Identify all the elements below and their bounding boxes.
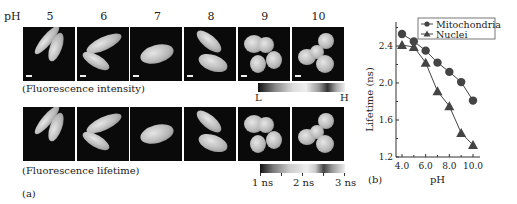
mitochondria-marker (469, 96, 477, 104)
cell-shape (266, 51, 282, 69)
x-tick-label: 6.0 (419, 161, 434, 171)
intensity-caption: (Fluorescence intensity) (22, 83, 145, 94)
panel-a-label: (a) (22, 188, 36, 199)
lifetime-caption: (Fluorescence lifetime) (22, 165, 140, 176)
lifetime-label-1ns: 1 ns (252, 177, 273, 188)
mitochondria-marker (445, 68, 453, 76)
intensity-image-ph-8 (184, 27, 236, 81)
lifetime-colorbar (260, 164, 345, 173)
intensity-image-ph-6 (77, 27, 129, 81)
cell-shape (250, 135, 266, 153)
lifetime-image-ph-9 (238, 107, 290, 161)
ph-column-label: 8 (184, 10, 238, 23)
lifetime-vs-ph-chart: 1.21.62.02.44.06.08.010.0pHLifetime (ns)… (360, 0, 517, 204)
mitochondria-marker (398, 30, 406, 38)
mitochondria-marker (421, 46, 429, 54)
panel-b-label: (b) (368, 174, 382, 185)
scale-bar (241, 75, 247, 77)
colorbar-tick (260, 173, 261, 176)
lifetime-label-2ns: 2 ns (293, 177, 314, 188)
x-axis-label: pH (430, 174, 445, 185)
nuclei-marker (456, 128, 466, 137)
intensity-image-ph-10 (292, 27, 344, 81)
nuclei-marker (397, 40, 407, 49)
lifetime-image-ph-5 (23, 107, 75, 161)
y-tick-label: 1.2 (379, 152, 393, 162)
scale-bar (187, 75, 193, 77)
cell-shape (196, 130, 230, 155)
colorbar-tick (281, 173, 282, 176)
mitochondria-marker (433, 58, 441, 66)
scale-bar (295, 75, 301, 77)
y-tick-label: 2.4 (379, 41, 394, 51)
ph-column-label: 5 (23, 10, 77, 23)
intensity-image-ph-7 (130, 27, 182, 81)
x-tick-label: 10.0 (463, 161, 483, 171)
colorbar-tick (344, 173, 345, 176)
y-tick-label: 1.6 (379, 115, 394, 125)
cell-shape (316, 135, 334, 153)
nuclei-marker (433, 86, 443, 95)
mitochondria-marker (457, 78, 465, 86)
lifetime-image-ph-6 (77, 107, 129, 161)
legend-marker-mitochondria (424, 21, 429, 26)
intensity-high-label: H (340, 92, 349, 103)
ph-column-label: 10 (292, 10, 346, 23)
cell-shape (316, 55, 334, 73)
intensity-colorbar (258, 83, 345, 92)
ph-column-label: 6 (77, 10, 131, 23)
x-tick-label: 4.0 (395, 161, 410, 171)
scale-bar (26, 75, 32, 77)
nuclei-marker (421, 58, 431, 67)
y-axis-label: Lifetime (ns) (364, 67, 375, 132)
ph-column-label: 9 (238, 10, 292, 23)
cell-shape (139, 41, 177, 67)
intensity-image-ph-9 (238, 27, 290, 81)
cell-shape (266, 131, 282, 149)
lifetime-label-3ns: 3 ns (335, 177, 356, 188)
cell-shape (139, 121, 177, 147)
colorbar-tick (302, 173, 303, 176)
scale-bar (80, 75, 86, 77)
ph-column-label: 7 (130, 10, 184, 23)
x-tick-label: 8.0 (442, 161, 457, 171)
intensity-image-ph-5 (23, 27, 75, 81)
colorbar-tick (323, 173, 324, 176)
lifetime-image-ph-10 (292, 107, 344, 161)
cell-shape (250, 55, 266, 73)
scale-bar (133, 75, 139, 77)
cell-shape (193, 27, 224, 56)
intensity-low-label: L (255, 92, 262, 103)
cell-shape (196, 50, 230, 75)
legend-label-nuclei: Nuclei (436, 29, 467, 40)
lifetime-image-ph-7 (130, 107, 182, 161)
y-tick-label: 2.0 (379, 78, 394, 88)
ph-row-label: pH (4, 10, 21, 23)
cell-shape (193, 107, 224, 136)
lifetime-image-ph-8 (184, 107, 236, 161)
